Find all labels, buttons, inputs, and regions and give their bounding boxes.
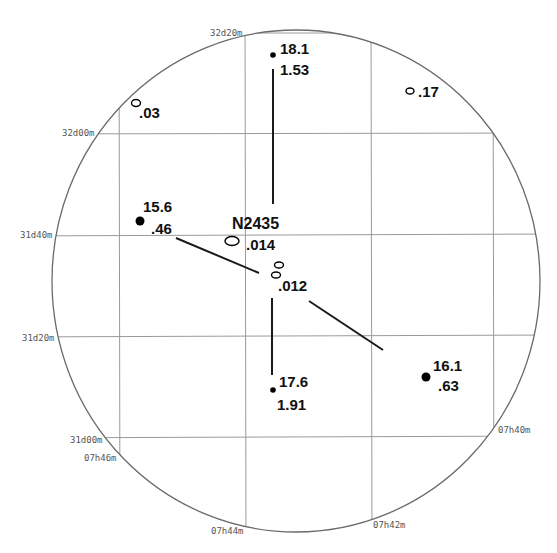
star-magnitude-label: 18.1 xyxy=(280,40,309,57)
star-15-6: 15.6.46 xyxy=(136,198,173,237)
grid-ra-07h46m xyxy=(119,0,120,553)
object-value-label: .012 xyxy=(278,277,307,294)
dec-label: 32d20m xyxy=(210,28,243,38)
declination-labels: 32d20m32d00m31d40m31d20m31d00m xyxy=(20,28,243,445)
filled-star-icon xyxy=(422,373,431,382)
ra-label: 07h42m xyxy=(373,520,406,530)
star-magnitude-label: 15.6 xyxy=(143,198,172,215)
ra-label: 07h46m xyxy=(84,453,117,463)
object-value-label: .17 xyxy=(418,83,439,100)
grid-dec-31d20m xyxy=(0,335,557,337)
stars: 18.11.5315.6.4617.61.9116.1.63 xyxy=(136,40,463,413)
proper-motion-vectors xyxy=(176,69,383,375)
star-value-label: .63 xyxy=(438,377,459,394)
star-16-1: 16.1.63 xyxy=(422,357,463,394)
ra-label: 07h44m xyxy=(211,526,244,536)
grid-ra-07h42m xyxy=(371,0,372,553)
obj-03: .03 xyxy=(132,100,160,122)
obj-17: .17 xyxy=(406,83,439,100)
filled-star-icon xyxy=(136,217,145,226)
obj-014: .014 xyxy=(225,236,276,253)
filled-star-icon xyxy=(270,52,276,58)
grid-ra-07h40m xyxy=(493,0,494,553)
cluster-name-label: N2435 xyxy=(232,215,279,232)
grid-dec-31d40m xyxy=(0,234,557,236)
open-ellipse-icon xyxy=(275,262,284,268)
open-ellipse-icon xyxy=(406,88,414,94)
right-ascension-labels: 07h46m07h44m07h42m07h40m xyxy=(84,425,531,536)
open-objects: .03.17.014.012 xyxy=(132,83,439,294)
star-value-label: 1.91 xyxy=(277,396,306,413)
dec-label: 31d20m xyxy=(22,333,55,343)
object-value-label: .03 xyxy=(139,104,160,121)
obj-012a xyxy=(275,262,284,268)
star-magnitude-label: 17.6 xyxy=(279,373,308,390)
finder-chart: 32d20m32d00m31d40m31d20m31d00m 07h46m07h… xyxy=(0,0,557,553)
star-magnitude-label: 16.1 xyxy=(433,357,462,374)
star-value-label: .46 xyxy=(151,220,172,237)
object-value-label: .014 xyxy=(246,236,276,253)
dec-label: 31d40m xyxy=(20,230,53,240)
dec-label: 31d00m xyxy=(70,435,103,445)
ra-label: 07h40m xyxy=(498,425,531,435)
dec-label: 32d00m xyxy=(62,128,95,138)
star-18-1: 18.11.53 xyxy=(270,40,309,78)
filled-star-icon xyxy=(270,387,276,393)
obj-012b: .012 xyxy=(272,272,308,294)
open-ellipse-icon xyxy=(225,237,239,246)
star-17-6: 17.61.91 xyxy=(270,373,308,413)
grid-ra-07h44m xyxy=(245,0,246,553)
star-value-label: 1.53 xyxy=(280,61,309,78)
